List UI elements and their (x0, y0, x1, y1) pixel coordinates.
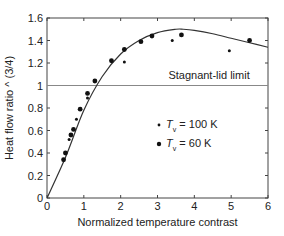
data-point-tv60 (69, 133, 74, 138)
data-point-tv100 (123, 60, 126, 63)
chart: 012345600.20.40.60.811.21.41.6Normalized… (0, 0, 284, 236)
data-point-tv60 (122, 47, 127, 52)
data-point-tv60 (150, 34, 155, 39)
x-tick-label: 0 (44, 200, 50, 212)
y-tick-label: 1.6 (28, 12, 43, 24)
data-point-tv60 (179, 32, 184, 37)
data-point-tv60 (71, 127, 76, 132)
data-point-tv60 (61, 157, 66, 162)
legend-marker (157, 142, 161, 146)
y-tick-label: 1.4 (28, 35, 43, 47)
x-tick-label: 1 (81, 200, 87, 212)
data-point-tv60 (63, 151, 68, 156)
data-point-tv60 (247, 38, 252, 43)
stagnant-lid-annotation: Stagnant-lid limit (168, 69, 249, 81)
plot-area: 012345600.20.40.60.811.21.41.6Normalized… (3, 12, 271, 228)
legend-marker (158, 124, 161, 127)
data-point-tv100 (75, 118, 78, 121)
y-tick-label: 0.2 (28, 170, 43, 182)
data-point-tv60 (139, 39, 144, 44)
y-tick-label: 0.4 (28, 147, 43, 159)
x-tick-label: 6 (265, 200, 271, 212)
y-tick-label: 1.2 (28, 57, 43, 69)
data-point-tv100 (228, 49, 231, 52)
x-tick-label: 2 (118, 200, 124, 212)
data-point-tv60 (109, 58, 114, 63)
x-axis-label: Normalized temperature contrast (77, 216, 237, 228)
x-tick-label: 5 (228, 200, 234, 212)
y-tick-label: 0.8 (28, 102, 43, 114)
legend-label: Tv = 60 K (166, 137, 212, 152)
x-tick-label: 4 (191, 200, 197, 212)
fit-curve (47, 29, 268, 198)
data-point-tv100 (68, 138, 71, 141)
data-point-tv60 (78, 107, 83, 112)
y-axis-label: Heat flow ratio ^ (3/4) (3, 56, 15, 160)
legend-label: Tv = 100 K (166, 118, 218, 133)
data-point-tv60 (85, 91, 90, 96)
data-point-tv100 (171, 39, 174, 42)
data-point-tv60 (92, 79, 97, 84)
data-point-tv100 (86, 96, 89, 99)
x-tick-label: 3 (154, 200, 160, 212)
y-tick-label: 0 (37, 192, 43, 204)
y-tick-label: 1 (37, 80, 43, 92)
y-tick-label: 0.6 (28, 125, 43, 137)
